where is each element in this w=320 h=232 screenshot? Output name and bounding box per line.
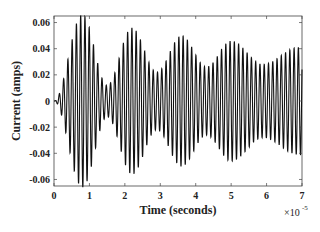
x-tick-label: 7 bbox=[300, 190, 305, 201]
y-axis-label: Current (amps) bbox=[9, 61, 23, 141]
x-scale-multiplier: ×10 -5 bbox=[284, 204, 308, 218]
x-tick-label: 4 bbox=[193, 190, 198, 201]
svg-text:-5: -5 bbox=[302, 204, 308, 212]
y-tick-label: -0.04 bbox=[29, 148, 50, 159]
x-tick-label: 1 bbox=[87, 190, 92, 201]
x-tick-label: 5 bbox=[229, 190, 234, 201]
y-tick-label: 0 bbox=[45, 96, 50, 107]
x-tick-label: 0 bbox=[52, 190, 57, 201]
svg-text:×10: ×10 bbox=[284, 207, 300, 218]
x-tick-label: 3 bbox=[158, 190, 163, 201]
chart: -0.06-0.04-0.0200.020.040.06 01234567 Ti… bbox=[0, 0, 320, 232]
x-axis-label: Time (seconds) bbox=[140, 203, 217, 217]
y-tick-label: 0.02 bbox=[33, 69, 51, 80]
plot-area bbox=[54, 15, 302, 187]
y-tick-label: -0.06 bbox=[29, 174, 50, 185]
x-tick-label: 6 bbox=[264, 190, 269, 201]
x-tick-label: 2 bbox=[122, 190, 127, 201]
y-tick-label: 0.06 bbox=[33, 17, 51, 28]
y-tick-label: -0.02 bbox=[29, 122, 50, 133]
y-tick-label: 0.04 bbox=[33, 43, 51, 54]
